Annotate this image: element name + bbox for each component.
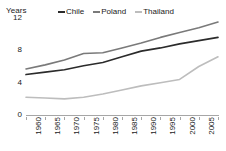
x-tick-1970 xyxy=(64,117,65,120)
x-tick-1960 xyxy=(26,117,27,120)
x-tick-1975 xyxy=(84,117,85,120)
x-tick-1965 xyxy=(45,117,46,120)
x-tick-label-1970: 1970 xyxy=(73,117,81,151)
series-line-chile xyxy=(26,37,218,74)
x-axis-line xyxy=(26,115,219,116)
x-tick-label-1985: 1985 xyxy=(131,117,139,151)
x-tick-1995 xyxy=(160,117,161,120)
legend-swatch-thailand xyxy=(135,11,142,13)
legend-label-thailand: Thailand xyxy=(143,8,174,16)
legend-label-chile: Chile xyxy=(66,8,84,16)
x-tick-label-1995: 1995 xyxy=(169,117,177,151)
legend-swatch-chile xyxy=(58,11,65,13)
x-tick-2005 xyxy=(199,117,200,120)
x-tick-label-1965: 1965 xyxy=(54,117,62,151)
x-tick-label-1990: 1990 xyxy=(150,117,158,151)
legend-swatch-poland xyxy=(93,11,100,13)
line-chart: Years Chile Poland Thailand 12840 196019… xyxy=(0,0,226,151)
legend-item-chile[interactable]: Chile xyxy=(58,8,84,16)
x-tick-label-1975: 1975 xyxy=(93,117,101,151)
series-line-poland xyxy=(26,22,218,69)
x-tick-1985 xyxy=(122,117,123,120)
y-tick-label-12: 12 xyxy=(2,14,22,22)
x-axis-labels: 1960196519701975198019851990199520002005… xyxy=(26,117,218,151)
x-tick-label-2000: 2000 xyxy=(189,117,197,151)
y-tick-label-0: 0 xyxy=(2,111,22,119)
x-tick-1980 xyxy=(103,117,104,120)
plot-area xyxy=(26,18,218,115)
x-tick-2010 xyxy=(218,117,219,120)
x-tick-label-1960: 1960 xyxy=(35,117,43,151)
x-tick-label-2005: 2005 xyxy=(208,117,216,151)
y-tick-label-8: 8 xyxy=(2,46,22,54)
x-tick-label-1980: 1980 xyxy=(112,117,120,151)
legend-label-poland: Poland xyxy=(101,8,126,16)
x-tick-2000 xyxy=(180,117,181,120)
x-tick-1990 xyxy=(141,117,142,120)
chart-legend: Chile Poland Thailand xyxy=(58,8,174,16)
series-lines xyxy=(26,18,218,115)
y-tick-label-4: 4 xyxy=(2,79,22,87)
legend-item-poland[interactable]: Poland xyxy=(93,8,126,16)
legend-item-thailand[interactable]: Thailand xyxy=(135,8,174,16)
